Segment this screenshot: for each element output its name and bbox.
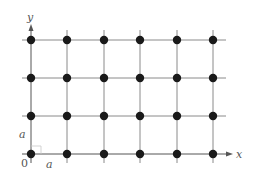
lattice-point — [136, 150, 144, 158]
lattice-points — [27, 36, 217, 158]
lattice-point — [173, 112, 181, 120]
lattice-point — [173, 150, 181, 158]
lattice-point — [100, 150, 108, 158]
horizontal-spacing-label: a — [46, 158, 53, 171]
square-lattice-diagram: y x 0 a a — [0, 0, 253, 175]
lattice-point — [27, 36, 35, 44]
lattice-point — [63, 150, 71, 158]
lattice-point — [136, 112, 144, 120]
lattice-point — [136, 74, 144, 82]
lattice-point — [209, 74, 217, 82]
lattice-point — [100, 74, 108, 82]
lattice-point — [63, 112, 71, 120]
lattice-point — [27, 74, 35, 82]
origin-label: 0 — [21, 157, 28, 170]
lattice-point — [27, 112, 35, 120]
lattice-point — [63, 36, 71, 44]
lattice-point — [173, 74, 181, 82]
vertical-spacing-label: a — [19, 128, 26, 141]
lattice-point — [100, 36, 108, 44]
y-axis-label: y — [26, 11, 34, 24]
x-axis-label: x — [236, 148, 243, 161]
lattice-point — [63, 74, 71, 82]
lattice-point — [209, 36, 217, 44]
lattice-point — [209, 150, 217, 158]
lattice-point — [100, 112, 108, 120]
x-axis-arrow-icon — [226, 152, 233, 157]
lattice-point — [136, 36, 144, 44]
y-axis-arrow-icon — [29, 24, 34, 31]
lattice-point — [209, 112, 217, 120]
lattice-point — [27, 150, 35, 158]
grid-lines — [22, 30, 226, 163]
lattice-point — [173, 36, 181, 44]
